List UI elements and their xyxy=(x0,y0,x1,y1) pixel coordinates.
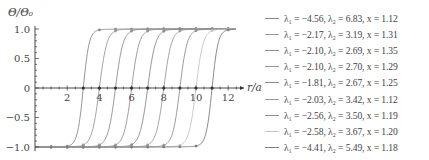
legend-swatch xyxy=(265,131,279,132)
legend-item: λ₁ = −2.56, λ₂ = 3.50, x = 1.19 xyxy=(265,107,429,123)
x-tick-label: 10 xyxy=(190,92,203,103)
data-point-marker xyxy=(162,146,165,149)
legend-label: λ₁ = −1.81, λ₂ = 2.67, x = 1.25 xyxy=(284,77,398,88)
axes: −1.0−0.500.51.024681012 xyxy=(6,24,244,153)
legend-label: λ₁ = −2.56, λ₂ = 3.50, x = 1.19 xyxy=(284,110,398,121)
data-point-marker xyxy=(114,146,117,149)
data-point-marker xyxy=(179,30,182,33)
data-point-marker xyxy=(162,30,165,33)
data-point-marker xyxy=(146,30,149,33)
data-point-marker xyxy=(98,29,101,32)
legend-item: λ₁ = −2.03, λ₂ = 3.42, x = 1.12 xyxy=(265,91,429,107)
legend-swatch xyxy=(265,50,279,51)
data-point-marker xyxy=(211,29,214,32)
y-tick-label: 0 xyxy=(24,83,30,94)
y-tick-label: 1.0 xyxy=(14,24,30,35)
y-tick-label: −0.5 xyxy=(6,112,30,123)
data-point-marker xyxy=(66,146,69,149)
data-point-marker xyxy=(82,146,85,149)
legend-item: λ₁ = −2.17, λ₂ = 3.19, x = 1.31 xyxy=(265,26,429,42)
legend-swatch xyxy=(265,115,279,116)
legend-item: λ₁ = −2.10, λ₂ = 2.70, x = 1.29 xyxy=(265,59,429,75)
legend-swatch xyxy=(265,66,279,67)
data-point-marker xyxy=(195,145,198,148)
x-tick-label: 12 xyxy=(222,92,235,103)
y-axis-label: Θ/Θ₀ xyxy=(8,6,34,18)
legend-swatch xyxy=(265,147,279,148)
y-tick-label: 0.5 xyxy=(14,53,30,64)
x-tick-label: 4 xyxy=(96,92,102,103)
legend-swatch xyxy=(265,82,279,83)
legend-label: λ₁ = −2.10, λ₂ = 2.70, x = 1.29 xyxy=(284,61,398,72)
data-point-marker xyxy=(195,29,198,32)
legend-label: λ₁ = −2.10, λ₂ = 2.69, x = 1.35 xyxy=(284,45,398,56)
legend: λ₁ = −4.56, λ₂ = 6.83, x = 1.12 λ₁ = −2.… xyxy=(265,10,429,156)
data-point-marker xyxy=(179,145,182,148)
legend-label: λ₁ = −4.56, λ₂ = 6.83, x = 1.12 xyxy=(284,13,398,24)
x-tick-label: 6 xyxy=(128,92,134,103)
legend-swatch xyxy=(265,99,279,100)
series-curve xyxy=(35,29,235,149)
x-axis-label: r/a xyxy=(247,81,262,93)
legend-item: λ₁ = −1.81, λ₂ = 2.67, x = 1.25 xyxy=(265,75,429,91)
legend-item: λ₁ = −4.41, λ₂ = 5.49, x = 1.18 xyxy=(265,140,429,156)
legend-item: λ₁ = −4.56, λ₂ = 6.83, x = 1.12 xyxy=(265,10,429,26)
data-point-marker xyxy=(146,146,149,149)
legend-swatch xyxy=(265,18,279,19)
data-point-marker xyxy=(130,30,133,33)
x-tick-label: 8 xyxy=(161,92,167,103)
y-tick-label: −1.0 xyxy=(6,142,30,153)
data-point-marker xyxy=(50,146,53,149)
legend-swatch xyxy=(265,34,279,35)
x-tick-label: 2 xyxy=(64,92,70,103)
legend-label: λ₁ = −2.03, λ₂ = 3.42, x = 1.12 xyxy=(284,94,398,105)
legend-label: λ₁ = −4.41, λ₂ = 5.49, x = 1.18 xyxy=(284,142,398,153)
data-point-marker xyxy=(130,146,133,149)
data-point-marker xyxy=(227,29,230,32)
legend-item: λ₁ = −2.10, λ₂ = 2.69, x = 1.35 xyxy=(265,42,429,58)
legend-label: λ₁ = −2.58, λ₂ = 3.67, x = 1.20 xyxy=(284,126,398,137)
data-point-marker xyxy=(114,30,117,33)
legend-label: λ₁ = −2.17, λ₂ = 3.19, x = 1.31 xyxy=(284,29,398,40)
legend-item: λ₁ = −2.58, λ₂ = 3.67, x = 1.20 xyxy=(265,123,429,139)
data-point-marker xyxy=(98,146,101,149)
